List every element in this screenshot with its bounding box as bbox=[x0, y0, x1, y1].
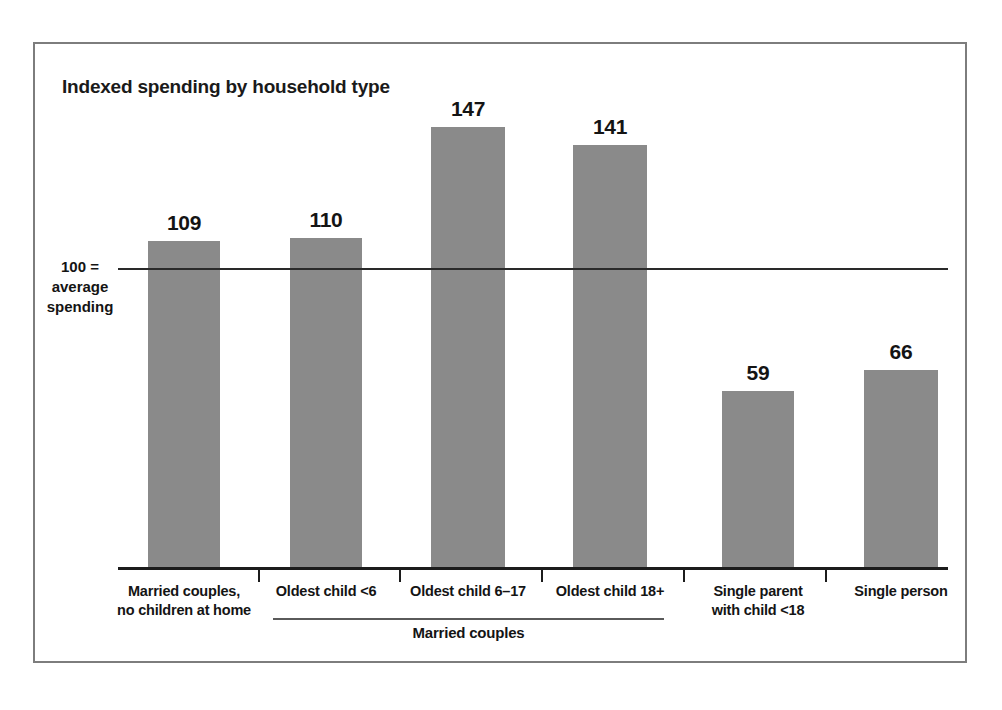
bar-value-label: 141 bbox=[573, 115, 647, 139]
bar-value-label: 59 bbox=[722, 361, 794, 385]
category-label-line-1: Single person bbox=[831, 582, 971, 601]
reference-label-line-3: spending bbox=[41, 297, 119, 317]
category-label-single-parent: Single parent with child <18 bbox=[688, 582, 828, 621]
bar-oldest-child-6-17 bbox=[431, 127, 505, 567]
axis-tick bbox=[541, 569, 543, 582]
category-label-line-1: Oldest child <6 bbox=[256, 582, 396, 601]
bar-value-label: 110 bbox=[290, 208, 362, 232]
category-label-line-1: Single parent bbox=[688, 582, 828, 601]
axis-tick bbox=[825, 569, 827, 582]
reference-line-connector bbox=[118, 268, 150, 270]
bar-value-label: 66 bbox=[864, 340, 938, 364]
bar-married-no-children bbox=[148, 241, 220, 567]
category-label-line-1: Married couples, bbox=[114, 582, 254, 601]
category-label-line-2: no children at home bbox=[114, 601, 254, 620]
category-label-line-2: with child <18 bbox=[688, 601, 828, 620]
bar-oldest-child-under-6 bbox=[290, 238, 362, 567]
category-label-line-1: Oldest child 18+ bbox=[540, 582, 680, 601]
reference-line-label: 100 = average spending bbox=[41, 257, 119, 316]
group-bracket-label: Married couples bbox=[273, 624, 664, 641]
category-label-married-no-children: Married couples, no children at home bbox=[114, 582, 254, 621]
axis-tick bbox=[399, 569, 401, 582]
category-label-oldest-child-under-6: Oldest child <6 bbox=[256, 582, 396, 601]
reference-line-100 bbox=[148, 268, 948, 270]
bar-value-label: 109 bbox=[148, 211, 220, 235]
bar-oldest-child-18-plus bbox=[573, 145, 647, 567]
category-label-oldest-child-6-17: Oldest child 6–17 bbox=[398, 582, 538, 601]
category-label-single-person: Single person bbox=[831, 582, 971, 601]
bar-single-person bbox=[864, 370, 938, 567]
axis-tick bbox=[258, 569, 260, 582]
axis-tick bbox=[683, 569, 685, 582]
group-bracket-line bbox=[273, 618, 664, 620]
x-axis-baseline bbox=[118, 567, 948, 570]
chart-frame: Indexed spending by household type 109 1… bbox=[33, 42, 967, 663]
reference-label-line-2: average bbox=[41, 277, 119, 297]
reference-label-line-1: 100 = bbox=[41, 257, 119, 277]
category-label-line-1: Oldest child 6–17 bbox=[398, 582, 538, 601]
bar-value-label: 147 bbox=[431, 97, 505, 121]
category-label-oldest-child-18-plus: Oldest child 18+ bbox=[540, 582, 680, 601]
bar-single-parent bbox=[722, 391, 794, 567]
plot-area: 109 110 147 141 59 66 100 = average spen… bbox=[35, 44, 965, 661]
